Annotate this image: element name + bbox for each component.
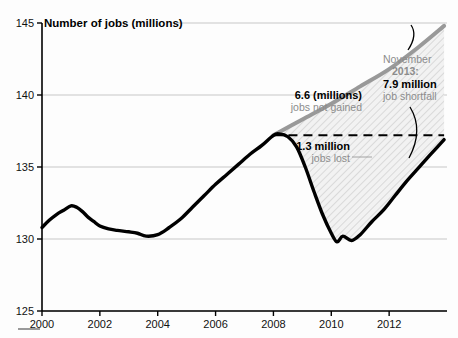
legend-swatch-fragment bbox=[18, 328, 40, 330]
x-tick-label-2010: 2010 bbox=[319, 318, 343, 330]
x-tick-label-2002: 2002 bbox=[88, 318, 112, 330]
y-tick-label-130: 130 bbox=[16, 233, 34, 245]
chart-canvas: 125130135140145 200020022004200620082010… bbox=[0, 0, 458, 338]
jobs-lost-value: 1.3 million bbox=[296, 140, 350, 152]
y-tick-label-140: 140 bbox=[16, 89, 34, 101]
jobs-chart: 125130135140145 200020022004200620082010… bbox=[0, 0, 458, 338]
y-tick-label-135: 135 bbox=[16, 161, 34, 173]
x-tick-label-2004: 2004 bbox=[145, 318, 169, 330]
x-tick-label-2008: 2008 bbox=[261, 318, 285, 330]
x-tick-label-2006: 2006 bbox=[203, 318, 227, 330]
shortfall-label: job shortfall bbox=[382, 90, 437, 102]
annotation-jobs-not-gained: 6.6 (millions) jobs not gained bbox=[290, 89, 363, 113]
shortfall-value: 7.9 million bbox=[383, 78, 437, 90]
jobs-lost-label: jobs lost bbox=[310, 152, 350, 164]
shortfall-month: November bbox=[383, 53, 432, 65]
y-tick-label-125: 125 bbox=[16, 305, 34, 317]
shortfall-year: 2013: bbox=[392, 65, 419, 77]
y-tick-label-145: 145 bbox=[16, 17, 34, 29]
jobs-not-gained-label: jobs not gained bbox=[290, 101, 362, 113]
chart-title: Number of jobs (millions) bbox=[44, 17, 183, 29]
x-tick-label-2012: 2012 bbox=[377, 318, 401, 330]
jobs-not-gained-value: 6.6 (millions) bbox=[295, 89, 363, 101]
